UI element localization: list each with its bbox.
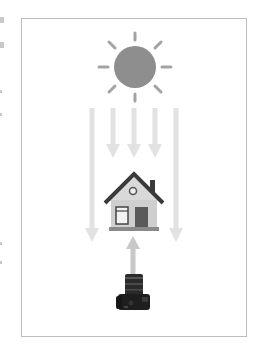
arrow-down-icon	[148, 108, 162, 158]
arrow-down-icon	[85, 108, 99, 242]
diagram-canvas	[0, 0, 261, 355]
diagram-illustration	[0, 0, 261, 355]
sun-icon	[99, 33, 171, 101]
arrow-down-icon	[106, 108, 120, 158]
arrow-up-icon	[126, 236, 140, 274]
house-icon	[105, 174, 163, 231]
arrow-down-icon	[127, 108, 141, 158]
arrow-down-icon	[169, 108, 183, 242]
camera-icon	[116, 274, 150, 310]
